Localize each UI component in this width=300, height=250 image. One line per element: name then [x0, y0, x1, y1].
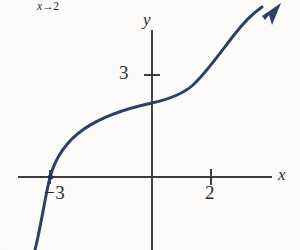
- y-tick-label-3: 3: [119, 63, 129, 82]
- y-axis-label: y: [143, 11, 151, 28]
- graph-figure: x→2 y x 3 −3 2: [0, 0, 300, 250]
- x-tick-label-neg-3: −3: [44, 183, 65, 202]
- coordinate-plot: [0, 0, 300, 250]
- limit-annotation: x→2: [37, 1, 59, 13]
- limit-target: 2: [53, 0, 59, 12]
- curve-arrowhead: [262, 3, 281, 25]
- function-curve: [35, 7, 262, 250]
- x-axis-label: x: [278, 166, 286, 183]
- x-tick-label-2: 2: [205, 183, 215, 202]
- x-intercept-point: [48, 174, 53, 179]
- right-arrow-icon: →: [42, 0, 53, 12]
